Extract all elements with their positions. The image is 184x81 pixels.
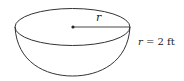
given-equals: = [146,36,154,47]
given-variable: r [138,36,143,47]
given-radius-text: r = 2 ft [138,36,175,47]
given-value: 2 ft [158,36,175,47]
radius-label: r [96,11,101,24]
hemisphere-diagram: r r = 2 ft [0,0,184,81]
bowl-outline [15,27,130,76]
